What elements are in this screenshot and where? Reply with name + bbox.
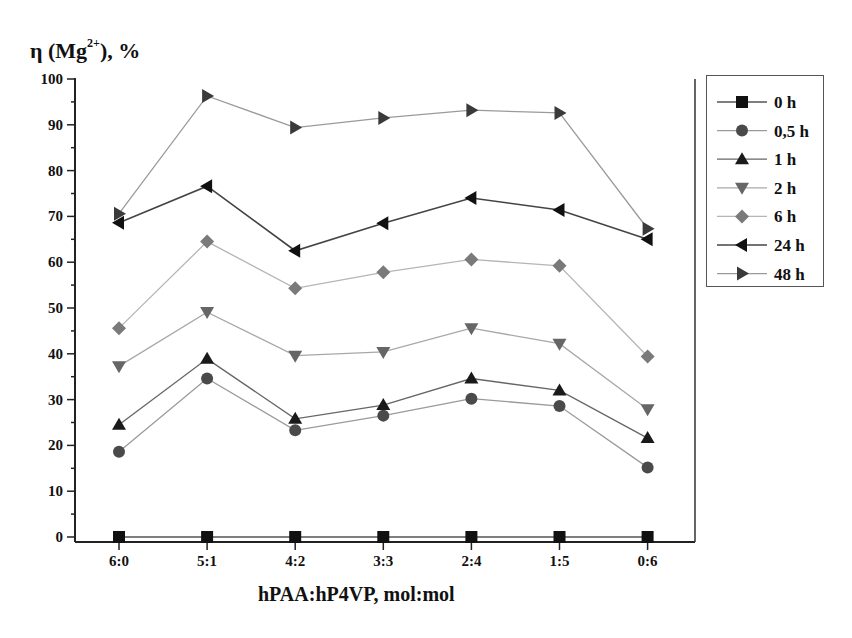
legend-label: 48 h bbox=[774, 265, 805, 284]
legend-label: 24 h bbox=[774, 236, 805, 255]
data-point bbox=[376, 265, 390, 279]
data-point bbox=[288, 351, 302, 363]
series-6-h bbox=[112, 235, 655, 364]
series-1-h bbox=[112, 352, 655, 443]
data-point bbox=[113, 531, 125, 543]
data-point bbox=[376, 347, 390, 359]
data-point bbox=[202, 89, 214, 103]
data-point bbox=[200, 352, 214, 364]
line-chart: 01020304050607080901006:05:14:23:32:41:5… bbox=[0, 0, 852, 638]
x-tick-label: 0:6 bbox=[638, 553, 658, 569]
data-point bbox=[378, 111, 390, 125]
series-24-h bbox=[112, 179, 653, 258]
y-tick-label: 100 bbox=[41, 71, 64, 87]
axes: 01020304050607080901006:05:14:23:32:41:5… bbox=[41, 71, 696, 569]
y-tick-label: 60 bbox=[48, 254, 63, 270]
x-tick-label: 6:0 bbox=[109, 553, 129, 569]
data-point bbox=[641, 404, 655, 416]
legend-label: 2 h bbox=[774, 179, 797, 198]
data-point bbox=[643, 222, 655, 236]
x-tick-label: 4:2 bbox=[285, 553, 305, 569]
series-0-5-h bbox=[113, 373, 654, 474]
data-point bbox=[290, 121, 302, 135]
square-marker-icon bbox=[736, 96, 748, 108]
data-point bbox=[376, 216, 388, 230]
legend-label: 6 h bbox=[774, 207, 797, 226]
legend: 0 h0,5 h1 h2 h6 h24 h48 h bbox=[707, 76, 824, 287]
y-tick-label: 50 bbox=[48, 300, 63, 316]
data-point bbox=[465, 393, 477, 405]
data-point bbox=[642, 531, 654, 543]
data-point bbox=[555, 106, 567, 120]
y-tick-label: 90 bbox=[48, 117, 63, 133]
data-point bbox=[464, 372, 478, 384]
y-tick-label: 80 bbox=[48, 163, 63, 179]
legend-label: 1 h bbox=[774, 150, 797, 169]
legend-label: 0,5 h bbox=[774, 122, 810, 141]
data-point bbox=[113, 446, 125, 458]
y-tick-label: 30 bbox=[48, 392, 63, 408]
circle-marker-icon bbox=[736, 125, 748, 137]
legend-box bbox=[707, 76, 824, 287]
data-point bbox=[553, 203, 565, 217]
data-point bbox=[289, 531, 301, 543]
data-point bbox=[554, 531, 566, 543]
data-point bbox=[464, 252, 478, 266]
series-line bbox=[119, 186, 648, 251]
data-point bbox=[288, 281, 302, 295]
data-point bbox=[554, 400, 566, 412]
data-point bbox=[553, 339, 567, 351]
data-point bbox=[465, 531, 477, 543]
data-point bbox=[377, 531, 389, 543]
y-tick-label: 20 bbox=[48, 437, 63, 453]
x-tick-label: 3:3 bbox=[373, 553, 393, 569]
legend-label: 0 h bbox=[774, 93, 797, 112]
series-group bbox=[112, 89, 655, 543]
x-tick-label: 1:5 bbox=[550, 553, 570, 569]
y-tick-label: 10 bbox=[48, 483, 63, 499]
x-axis-title: hPAA:hP4VP, mol:mol bbox=[258, 583, 455, 606]
data-point bbox=[641, 431, 655, 443]
data-point bbox=[642, 461, 654, 473]
y-tick-label: 0 bbox=[56, 529, 64, 545]
data-point bbox=[289, 424, 301, 436]
data-point bbox=[200, 179, 212, 193]
data-point bbox=[201, 373, 213, 385]
x-tick-label: 5:1 bbox=[197, 553, 217, 569]
data-point bbox=[288, 244, 300, 258]
y-tick-label: 70 bbox=[48, 208, 63, 224]
data-point bbox=[200, 307, 214, 319]
data-point bbox=[112, 361, 126, 373]
data-point bbox=[201, 531, 213, 543]
data-point bbox=[464, 191, 476, 205]
series-line bbox=[119, 242, 648, 357]
data-point bbox=[112, 418, 126, 430]
series-48-h bbox=[114, 89, 655, 236]
series-line bbox=[119, 379, 648, 468]
y-tick-label: 40 bbox=[48, 346, 63, 362]
data-point bbox=[641, 232, 653, 246]
x-tick-label: 2:4 bbox=[461, 553, 481, 569]
data-point bbox=[377, 410, 389, 422]
data-point bbox=[466, 103, 478, 117]
